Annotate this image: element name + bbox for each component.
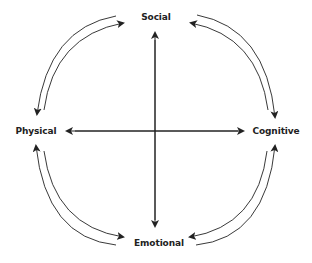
node-label-emotional: Emotional (134, 238, 184, 248)
arc-physical-to-social (44, 23, 123, 110)
arc-cognitive-to-emotional (190, 151, 267, 237)
arc-emotional-to-physical (36, 146, 116, 245)
node-label-social: Social (141, 12, 171, 22)
arc-emotional-to-cognitive (196, 146, 275, 245)
arc-physical-to-emotional (44, 151, 123, 237)
node-label-physical: Physical (15, 126, 56, 136)
arc-social-to-cognitive (197, 15, 275, 117)
arc-cognitive-to-social (191, 23, 268, 110)
arc-social-to-physical (37, 16, 116, 114)
node-label-cognitive: Cognitive (252, 126, 299, 136)
